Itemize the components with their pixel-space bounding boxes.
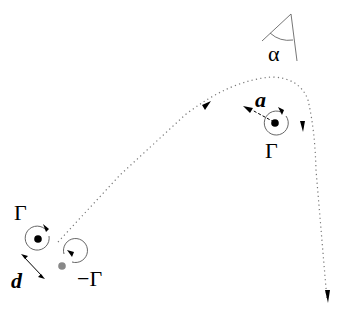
vortex-diagram: α a Γ Γ d −Γ — [0, 0, 343, 313]
circulation-negative-label: −Γ — [77, 266, 102, 291]
circulation-top-label: Γ — [265, 138, 278, 163]
angle-alpha-label: α — [268, 41, 280, 66]
path-arrow-right — [300, 121, 305, 132]
circulation-left-label: Γ — [14, 200, 27, 225]
separation-d-label: d — [11, 268, 23, 293]
path-arrow-left — [202, 101, 211, 110]
separation-a-label: a — [255, 87, 266, 112]
path-arrow-bottom — [325, 290, 330, 303]
